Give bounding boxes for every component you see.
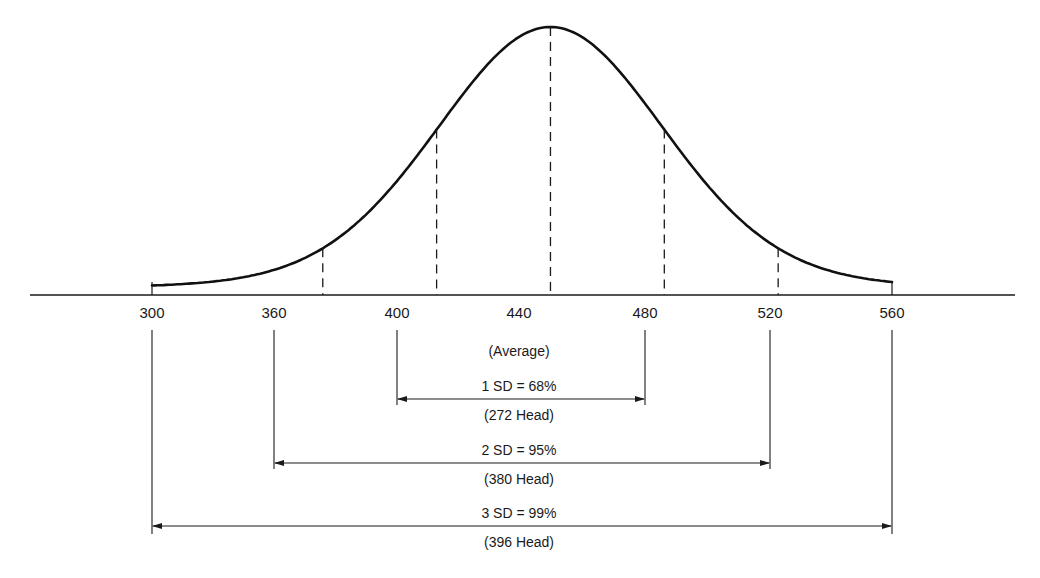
- bell-curve: [152, 27, 892, 286]
- tick-label-400: 400: [384, 304, 409, 321]
- tick-label-480: 480: [632, 304, 657, 321]
- range-2sd-label: 2 SD = 95%: [481, 442, 556, 458]
- tick-label-440: 440: [506, 304, 531, 321]
- range-1sd-count: (272 Head): [484, 407, 554, 423]
- tick-label-300: 300: [139, 304, 164, 321]
- range-1sd-label: 1 SD = 68%: [481, 378, 556, 394]
- dashed-markers: [323, 27, 778, 295]
- range-3sd-label: 3 SD = 99%: [481, 505, 556, 521]
- x-tick-labels: 300 360 400 440 480 520 560: [139, 304, 904, 321]
- range-3sd: [152, 330, 892, 534]
- tick-label-360: 360: [261, 304, 286, 321]
- range-3sd-count: (396 Head): [484, 534, 554, 550]
- tick-label-520: 520: [757, 304, 782, 321]
- tick-label-560: 560: [879, 304, 904, 321]
- average-label: (Average): [488, 343, 549, 359]
- normal-distribution-chart: 300 360 400 440 480 520 560 (Average) 1 …: [0, 0, 1040, 578]
- range-2sd-count: (380 Head): [484, 471, 554, 487]
